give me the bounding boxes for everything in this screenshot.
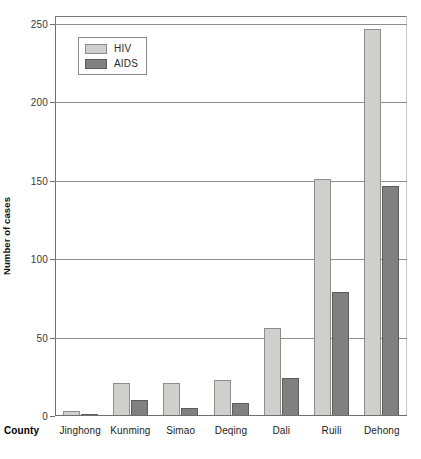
bar-hiv-dali [264, 328, 281, 416]
legend-swatch-aids [85, 59, 107, 69]
bar-group [163, 24, 198, 416]
y-axis-tick [50, 181, 55, 182]
bar-hiv-deqing [214, 380, 231, 416]
bar-group [113, 24, 148, 416]
bar-aids-ruili [332, 292, 349, 416]
bar-group [63, 24, 98, 416]
y-axis-tick-label: 0 [42, 411, 48, 422]
x-axis-tick-label: Ruili [322, 425, 342, 436]
legend-item-aids: AIDS [85, 58, 138, 69]
bar-hiv-dehong [364, 29, 381, 416]
y-axis-title: Number of cases [1, 197, 12, 275]
bar-aids-dehong [382, 186, 399, 416]
legend-item-hiv: HIV [85, 43, 138, 54]
y-axis-tick-label: 50 [36, 332, 48, 343]
y-axis-tick-label: 200 [31, 97, 48, 108]
x-axis-tick-label: Simao [166, 425, 195, 436]
bar-group [214, 24, 249, 416]
x-axis-title: County [4, 425, 39, 436]
x-axis-baseline [55, 415, 407, 416]
legend: HIVAIDS [78, 37, 147, 75]
bar-group [314, 24, 349, 416]
x-axis-tick-labels: JinghongKunmingSimaoDeqingDaliRuiliDehon… [55, 425, 407, 441]
bar-hiv-kunming [113, 383, 130, 416]
y-axis-tick-label: 100 [31, 254, 48, 265]
bar-group [364, 24, 399, 416]
x-axis-tick-label: Jinghong [59, 425, 100, 436]
plot-area: 050100150200250 [55, 24, 407, 416]
x-axis-tick-label: Dali [272, 425, 290, 436]
y-axis-line [55, 24, 56, 416]
x-axis-tick-label: Dehong [364, 425, 400, 436]
bar-chart: Number of cases 050100150200250 County J… [0, 0, 421, 459]
y-axis-tick [50, 416, 55, 417]
x-axis-tick-label: Deqing [215, 425, 247, 436]
y-axis-tick [50, 102, 55, 103]
bar-group [264, 24, 299, 416]
legend-swatch-hiv [85, 44, 107, 54]
y-axis-tick [50, 338, 55, 339]
y-axis-tick-label: 150 [31, 175, 48, 186]
y-axis-tick [50, 259, 55, 260]
y-axis-tick-label: 250 [31, 19, 48, 30]
legend-label: HIV [114, 43, 131, 54]
y-axis-tick [50, 24, 55, 25]
bar-hiv-ruili [314, 179, 331, 416]
bar-aids-dali [282, 378, 299, 416]
bar-hiv-simao [163, 383, 180, 416]
x-axis-tick-label: Kunming [110, 425, 150, 436]
bar-aids-kunming [131, 400, 148, 416]
legend-label: AIDS [114, 58, 138, 69]
